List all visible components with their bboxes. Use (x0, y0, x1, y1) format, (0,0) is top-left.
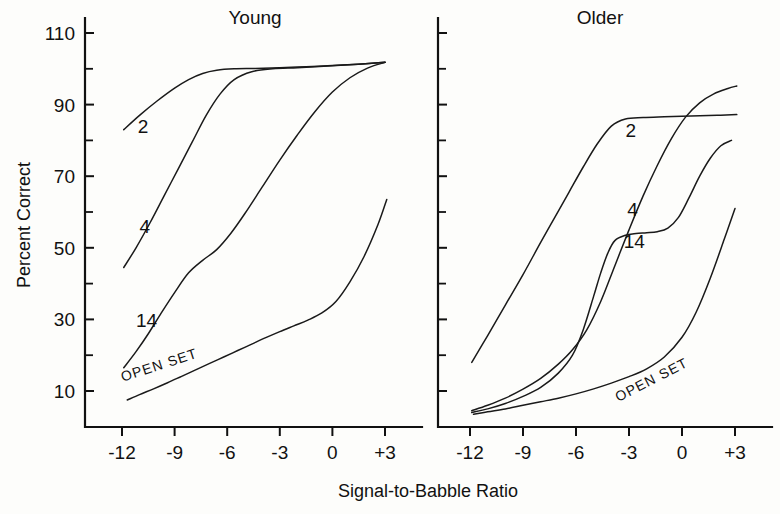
x-tick-label: 0 (677, 442, 688, 463)
curve-young-14 (124, 62, 385, 367)
figure-root: 1030507090110-12-9-6-30+3Young2414OPEN S… (0, 0, 780, 514)
curve-label-older-14: 14 (624, 231, 646, 252)
y-tick-label: 90 (54, 95, 75, 116)
percent-correct-chart: 1030507090110-12-9-6-30+3Young2414OPEN S… (0, 0, 780, 514)
panel-young: 1030507090110-12-9-6-30+3Young2414OPEN S… (45, 7, 422, 463)
curve-young-2 (124, 62, 385, 129)
curve-older-14 (472, 140, 732, 412)
x-tick-label: -6 (568, 442, 585, 463)
y-tick-label: 70 (54, 166, 75, 187)
curve-label-young-4: 4 (140, 216, 151, 237)
curve-young-4 (124, 62, 385, 267)
x-tick-label: -6 (219, 442, 236, 463)
y-axis-title: Percent Correct (14, 162, 34, 288)
curve-label-young-2: 2 (138, 116, 149, 137)
y-tick-label: 10 (54, 381, 75, 402)
curve-label-young-open-set: OPEN SET (119, 345, 200, 385)
x-tick-label: -12 (108, 442, 135, 463)
curve-label-young-14: 14 (136, 310, 158, 331)
curve-older-2 (472, 115, 737, 363)
curve-label-older-2: 2 (625, 120, 636, 141)
x-tick-label: -9 (515, 442, 532, 463)
curve-label-older-4: 4 (627, 199, 638, 220)
x-tick-label: -12 (456, 442, 483, 463)
panel-older: -12-9-6-30+3Older2414OPEN SET (438, 7, 772, 463)
panel-title-young: Young (228, 7, 281, 28)
y-tick-label: 50 (54, 238, 75, 259)
y-tick-label: 110 (45, 23, 75, 44)
x-tick-label: +3 (374, 442, 396, 463)
x-tick-label: +3 (724, 442, 746, 463)
curve-older-open-set (474, 208, 735, 414)
y-tick-label: 30 (54, 309, 75, 330)
x-tick-label: -3 (271, 442, 288, 463)
panel-axes (438, 18, 772, 427)
curve-label-older-open-set: OPEN SET (612, 354, 690, 404)
panel-title-older: Older (577, 7, 624, 28)
x-tick-label: -3 (621, 442, 638, 463)
x-axis-title: Signal-to-Babble Ratio (338, 481, 518, 501)
x-tick-label: 0 (327, 442, 338, 463)
x-tick-label: -9 (166, 442, 183, 463)
